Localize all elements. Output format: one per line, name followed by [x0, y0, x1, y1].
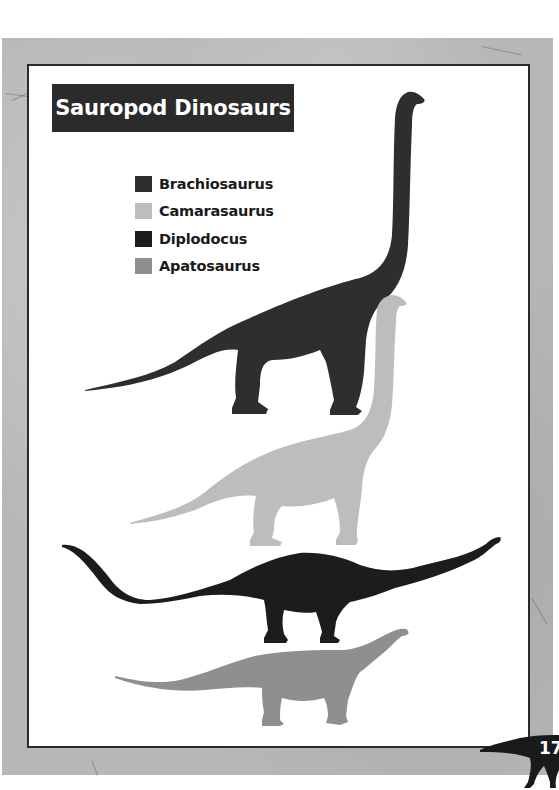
page-number: 17 [539, 738, 559, 758]
diplodocus-silhouette [62, 537, 501, 643]
apatosaurus-silhouette [115, 629, 409, 726]
sauropod-silhouettes [0, 0, 559, 790]
brachiosaurus-silhouette [85, 92, 425, 415]
